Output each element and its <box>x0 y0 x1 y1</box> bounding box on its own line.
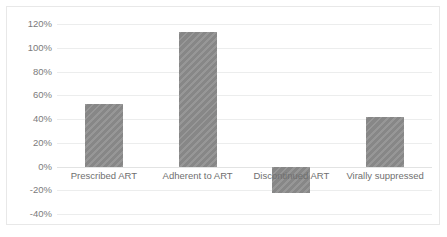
y-axis-tick-label: 0% <box>4 162 52 172</box>
y-axis-tick-label: 80% <box>4 67 52 77</box>
x-axis-category-label: Adherent to ART <box>151 170 245 181</box>
y-axis-tick-label: 40% <box>4 114 52 124</box>
y-axis-tick-label: -40% <box>4 209 52 219</box>
bar-chart: 120%100%80%60%40%20%0%-20%-40% Prescribe… <box>0 0 447 237</box>
bar[interactable] <box>179 32 217 166</box>
x-axis-category-label-slot: Virally suppressed <box>338 170 432 182</box>
y-axis: 120%100%80%60%40%20%0%-20%-40% <box>0 24 52 214</box>
plot-area <box>57 24 432 214</box>
bar-slot <box>245 24 339 214</box>
bar-slot <box>338 24 432 214</box>
y-axis-tick-label: 20% <box>4 138 52 148</box>
x-axis-category-label-slot: Prescribed ART <box>57 170 151 182</box>
bar-slot <box>57 24 151 214</box>
bar-slot <box>151 24 245 214</box>
gridline <box>57 214 432 215</box>
y-axis-tick-label: 60% <box>4 90 52 100</box>
bar[interactable] <box>85 104 123 167</box>
y-axis-tick-label: 120% <box>4 19 52 29</box>
x-axis-category-label-slot: Adherent to ART <box>151 170 245 182</box>
x-axis-category-label-slot: Discontinued ART <box>245 170 339 182</box>
y-axis-tick-label: -20% <box>4 185 52 195</box>
x-axis-category-labels: Prescribed ARTAdherent to ARTDiscontinue… <box>57 170 432 182</box>
x-axis-category-label: Virally suppressed <box>338 170 432 181</box>
x-axis-category-label: Discontinued ART <box>245 170 339 181</box>
bar[interactable] <box>366 117 404 167</box>
y-axis-tick-label: 100% <box>4 43 52 53</box>
x-axis-category-label: Prescribed ART <box>57 170 151 181</box>
